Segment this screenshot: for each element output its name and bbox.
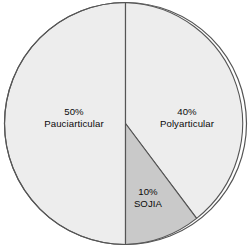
pie-label-polyarticular: 40% Polyarticular <box>128 106 246 131</box>
pie-label-sojia: 10% SOJIA <box>110 186 186 211</box>
pie-label-pauciarticular: 50% Pauciarticular <box>14 106 134 131</box>
pie-label-polyarticular-percent: 40% <box>128 106 246 118</box>
pie-label-pauciarticular-percent: 50% <box>14 106 134 118</box>
pie-label-sojia-percent: 10% <box>110 186 186 198</box>
pie-label-sojia-name: SOJIA <box>110 198 186 210</box>
pie-label-polyarticular-name: Polyarticular <box>128 118 246 130</box>
pie-label-pauciarticular-name: Pauciarticular <box>14 118 134 130</box>
pie-chart: 50% Pauciarticular 40% Polyarticular 10%… <box>0 0 249 251</box>
